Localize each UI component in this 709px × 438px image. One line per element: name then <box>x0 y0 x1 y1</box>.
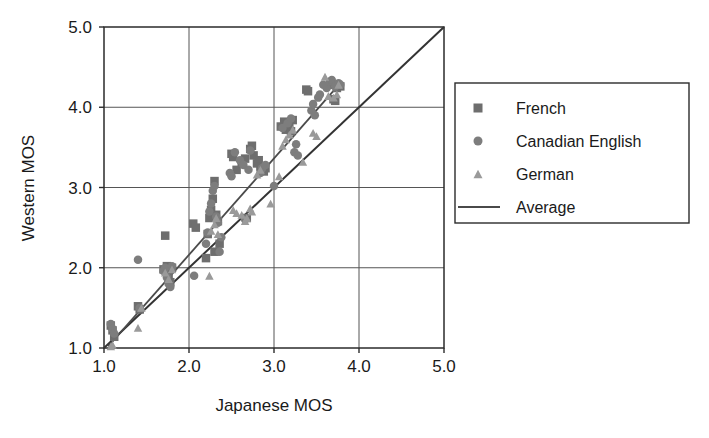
legend-item-label: German <box>516 166 574 183</box>
x-tick-label: 3.0 <box>262 357 286 376</box>
y-tick-label: 2.0 <box>68 259 92 278</box>
data-point-marker <box>202 239 211 248</box>
data-point-marker <box>207 199 216 208</box>
data-point-marker <box>190 272 199 281</box>
x-axis-title: Japanese MOS <box>215 396 332 415</box>
chart-canvas: 1.02.03.04.05.0 1.02.03.04.05.0 Japanese… <box>0 0 709 438</box>
legend-item-label: Average <box>516 199 575 216</box>
data-point-marker <box>166 283 175 292</box>
data-point-marker <box>287 114 296 123</box>
data-point-marker <box>292 140 301 149</box>
data-point-marker <box>202 254 211 263</box>
data-point-marker <box>210 182 219 191</box>
legend-item-label: French <box>516 100 566 117</box>
legend-item-label: Canadian English <box>516 133 641 150</box>
data-point-marker <box>261 161 270 170</box>
x-tick-label: 5.0 <box>432 357 456 376</box>
data-point-marker <box>246 146 255 155</box>
data-point-marker <box>244 166 253 175</box>
x-tick-label: 1.0 <box>92 357 116 376</box>
data-point-marker <box>311 111 320 120</box>
data-point-marker <box>161 231 170 240</box>
y-tick-label: 3.0 <box>68 179 92 198</box>
data-point-marker <box>231 148 240 157</box>
data-point-marker <box>110 329 119 338</box>
data-point-marker <box>227 172 236 181</box>
data-point-marker <box>215 247 224 256</box>
y-tick-label: 1.0 <box>68 339 92 358</box>
y-axis-title-text: Western MOS <box>19 135 38 241</box>
data-point-marker <box>134 255 143 264</box>
x-tick-label: 2.0 <box>177 357 201 376</box>
data-point-marker <box>304 87 313 96</box>
x-axis-title-text: Japanese MOS <box>215 396 332 415</box>
data-point-marker <box>316 90 325 99</box>
scatter-chart-figure: 1.02.03.04.05.0 1.02.03.04.05.0 Japanese… <box>0 0 709 438</box>
legend-marker-swatch <box>474 104 483 113</box>
y-tick-label: 4.0 <box>68 98 92 117</box>
y-tick-label: 5.0 <box>68 18 92 37</box>
legend: FrenchCanadian EnglishGermanAverage <box>455 83 689 223</box>
data-point-marker <box>270 182 279 191</box>
data-point-marker <box>294 151 303 160</box>
y-axis-title: Western MOS <box>19 135 38 241</box>
x-tick-label: 4.0 <box>347 357 371 376</box>
data-point-marker <box>192 223 201 232</box>
legend-marker-swatch <box>474 137 483 146</box>
